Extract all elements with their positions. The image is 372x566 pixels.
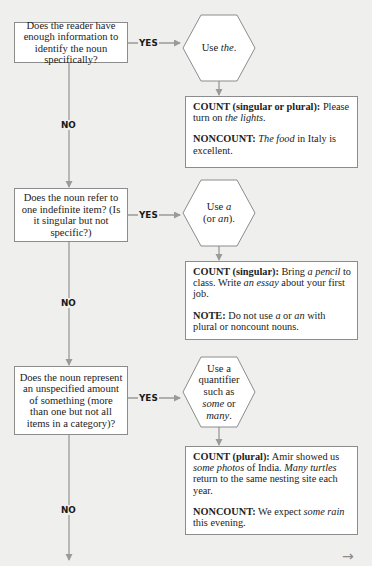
example-box-1: COUNT (singular or plural): Please turn …	[185, 96, 358, 168]
yes-label-1: YES	[138, 38, 159, 48]
example-box-2: COUNT (singular): Bring a pencil to clas…	[185, 261, 358, 340]
yes-label-3: YES	[138, 393, 159, 403]
question-text-3: Does the noun represent an unspecified a…	[19, 372, 123, 430]
question-text-1: Does the reader have enough information …	[19, 20, 123, 66]
no-label-1: NO	[60, 120, 77, 130]
question-text-2: Does the noun refer to one indefinite it…	[19, 192, 123, 238]
flowchart-article-usage: Does the reader have enough information …	[0, 0, 372, 566]
no-label-3: NO	[60, 505, 77, 515]
arrow-right-icon: →	[342, 549, 354, 563]
question-box-1: Does the reader have enough information …	[14, 22, 128, 63]
no-label-2: NO	[60, 298, 77, 308]
question-box-3: Does the noun represent an unspecified a…	[14, 366, 128, 435]
question-box-2: Does the noun refer to one indefinite it…	[14, 188, 128, 242]
example-count-1: COUNT (singular or plural): Please turn …	[193, 101, 351, 123]
action-hexagon-3: Use aquantifiersuch assome ormany.	[183, 357, 255, 427]
action-text-1: Use the.	[202, 42, 237, 54]
action-hexagon-1: Use the.	[183, 15, 255, 81]
example-noncount-3: NONCOUNT: We expect some rain this eveni…	[193, 506, 351, 528]
yes-label-2: YES	[138, 210, 159, 220]
action-text-3: Use aquantifiersuch assome ormany.	[198, 363, 239, 422]
example-box-3: COUNT (plural): Amir showed us some phot…	[185, 446, 358, 535]
action-text-2: Use a(or an).	[203, 201, 235, 225]
example-note-2: NOTE: Do not use a or an with plural or …	[193, 310, 351, 332]
example-count-3: COUNT (plural): Amir showed us some phot…	[193, 451, 351, 496]
example-count-2: COUNT (singular): Bring a pencil to clas…	[193, 266, 351, 300]
example-noncount-1: NONCOUNT: The food in Italy is excellent…	[193, 133, 351, 155]
action-hexagon-2: Use a(or an).	[183, 180, 255, 246]
